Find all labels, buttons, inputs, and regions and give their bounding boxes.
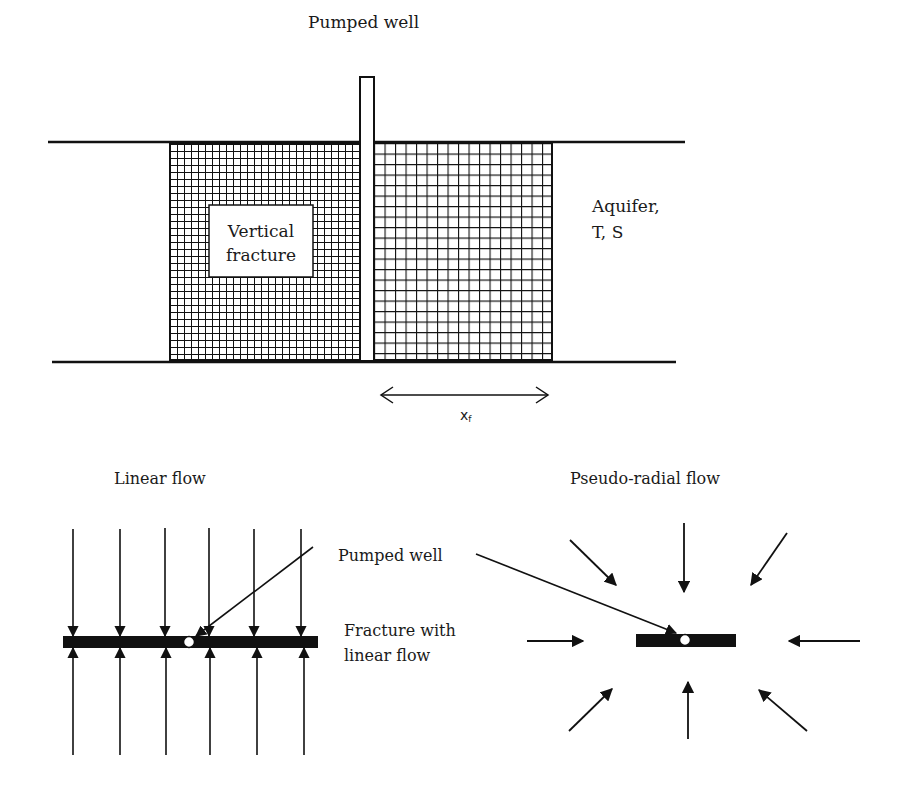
well-pointer-radial [476, 554, 676, 633]
pseudo-radial-flow-panel: Pseudo-radial flow [527, 469, 860, 739]
fracture-linear-label-line1: Fracture with [344, 621, 456, 640]
top-panel-cross-section: Pumped well Vertical fracture Aquifer, T… [48, 12, 685, 424]
linear-flow-panel: Linear flow Pumped well Fracture with l [63, 469, 456, 755]
pumped-well-dot-linear [184, 637, 195, 648]
aquifer-label-line2: T, S [592, 222, 623, 242]
pumped-well-label-bottom: Pumped well [338, 546, 443, 565]
half-length-dimension-arrow [381, 387, 548, 403]
fracture-linear-label-line2: linear flow [344, 646, 431, 665]
pumped-well-dot-radial [680, 635, 691, 646]
arrow-north-west [570, 540, 616, 585]
pumped-well-label-top: Pumped well [308, 12, 419, 32]
pseudo-radial-flow-title: Pseudo-radial flow [570, 469, 720, 488]
vertical-fracture-diagram: Pumped well Vertical fracture Aquifer, T… [0, 0, 906, 791]
radial-flow-arrows [527, 523, 860, 739]
linear-flow-arrows-bottom [73, 648, 304, 755]
fracture-label-line2: fracture [226, 245, 296, 265]
half-length-label: xf [460, 407, 472, 424]
arrow-north-east [751, 533, 787, 585]
pumped-well-casing [360, 77, 374, 361]
fracture-grid-right [374, 143, 552, 360]
arrow-south-east [759, 690, 807, 731]
fracture-label-line1: Vertical [227, 221, 294, 241]
arrow-south-west [569, 689, 612, 731]
aquifer-label-line1: Aquifer, [591, 196, 660, 216]
fracture-label-box [209, 205, 313, 277]
linear-flow-title: Linear flow [114, 469, 206, 488]
